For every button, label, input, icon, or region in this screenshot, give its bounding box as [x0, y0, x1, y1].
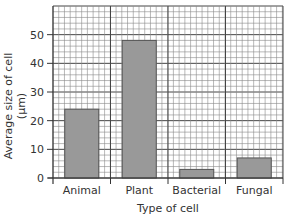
x-tick-fungal: Fungal — [236, 184, 272, 197]
y-tick-40: 40 — [30, 57, 44, 70]
y-axis-label: Average size of cell (µm) — [2, 53, 28, 160]
x-axis-label: Type of cell — [136, 202, 199, 215]
y-tick-20: 20 — [30, 115, 44, 128]
y-tick-labels: 01020304050 — [30, 29, 44, 185]
x-tick-bacterial: Bacterial — [172, 184, 221, 197]
bar-fungal — [237, 158, 271, 178]
y-tick-0: 0 — [37, 172, 44, 185]
y-tick-50: 50 — [30, 29, 44, 42]
bar-animal — [65, 109, 99, 178]
bar-plant — [122, 40, 156, 178]
y-axis-label-line2: (µm) — [15, 93, 28, 119]
x-tick-plant: Plant — [125, 184, 153, 197]
bar-chart: 01020304050 AnimalPlantBacterialFungal T… — [0, 0, 290, 216]
y-axis-label-line1: Average size of cell — [2, 53, 15, 160]
y-tick-30: 30 — [30, 86, 44, 99]
bar-bacterial — [180, 169, 214, 178]
y-tick-10: 10 — [30, 143, 44, 156]
x-tick-animal: Animal — [63, 184, 101, 197]
x-tick-labels: AnimalPlantBacterialFungal — [63, 184, 273, 197]
